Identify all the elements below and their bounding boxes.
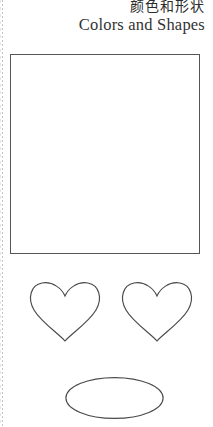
empty-rectangle xyxy=(10,54,200,254)
scan-binding-line xyxy=(2,0,3,427)
scan-binding-line-outer xyxy=(0,0,1,427)
worksheet-page: 颜色和形状 Colors and Shapes xyxy=(0,0,213,427)
ellipse-shape xyxy=(65,377,164,419)
heart-icon xyxy=(121,282,193,342)
heart-icon xyxy=(29,282,101,342)
heart-shape-left xyxy=(29,282,101,342)
page-title-chinese: 颜色和形状 xyxy=(0,0,205,14)
page-title-english: Colors and Shapes xyxy=(0,16,205,34)
ellipse-icon xyxy=(65,377,164,419)
page-header: 颜色和形状 Colors and Shapes xyxy=(0,0,213,34)
heart-shape-right xyxy=(121,282,193,342)
